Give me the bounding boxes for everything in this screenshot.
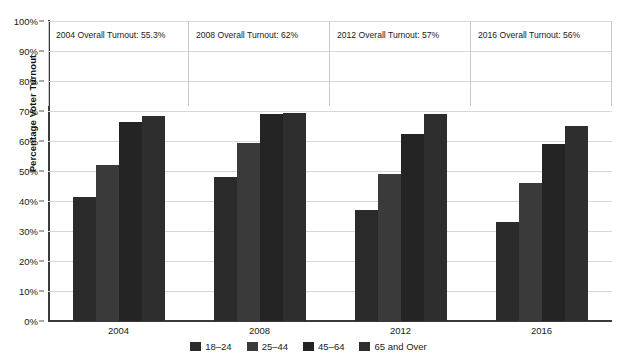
y-tick-label: 60% [19,136,38,147]
y-tick-mark [39,21,44,22]
y-tick-label: 10% [19,286,38,297]
bar-2012-25–44 [378,174,401,321]
y-tick-mark [39,81,44,82]
legend-swatch-icon [359,342,370,351]
y-tick-mark [39,261,44,262]
y-tick-mark [39,201,44,202]
x-tick-label-2008: 2008 [249,325,270,336]
y-tick-label: 100% [14,16,38,27]
bar-2008-18–24 [214,177,237,321]
y-tick-label: 70% [19,106,38,117]
chart-legend: 18–2425–4445–6465 and Over [0,341,617,352]
bar-2004-25–44 [96,165,119,321]
bar-2016-25–44 [519,183,542,321]
y-tick-mark [39,321,44,322]
y-axis-ticks: 0%10%20%30%40%50%60%70%80%90%100% [0,0,48,361]
bar-2008-65-and-Over [283,113,306,322]
bar-2008-45–64 [260,114,283,321]
y-tick-label: 30% [19,226,38,237]
x-tick-label-2012: 2012 [390,325,411,336]
bar-2004-65-and-Over [142,116,165,322]
y-tick-mark [39,111,44,112]
bar-2012-65-and-Over [424,114,447,321]
legend-swatch-icon [303,342,314,351]
y-tick-label: 80% [19,76,38,87]
y-tick-label: 20% [19,256,38,267]
y-tick-mark [39,51,44,52]
legend-item-25–44[interactable]: 25–44 [247,341,288,352]
y-tick-mark [39,141,44,142]
bar-2012-18–24 [355,210,378,321]
plot-area: 2004 Overall Turnout: 55.3%2008 Overall … [48,21,612,321]
legend-label: 25–44 [262,341,288,352]
bar-2008-25–44 [237,143,260,322]
bars-layer [48,21,612,321]
legend-label: 18–24 [205,341,231,352]
y-tick-label: 40% [19,196,38,207]
y-tick-label: 0% [24,316,38,327]
bar-2016-18–24 [496,222,519,321]
bar-2004-45–64 [119,122,142,322]
x-tick-label-2016: 2016 [531,325,552,336]
legend-item-65-and-Over[interactable]: 65 and Over [359,341,426,352]
x-axis-labels: 2004200820122016 [48,323,612,343]
bar-2004-18–24 [73,197,96,322]
y-tick-mark [39,231,44,232]
legend-label: 65 and Over [374,341,426,352]
legend-item-45–64[interactable]: 45–64 [303,341,344,352]
y-tick-label: 50% [19,166,38,177]
legend-item-18–24[interactable]: 18–24 [190,341,231,352]
legend-swatch-icon [247,342,258,351]
y-tick-mark [39,171,44,172]
y-tick-mark [39,291,44,292]
y-tick-label: 90% [19,46,38,57]
bar-2016-65-and-Over [565,126,588,321]
bar-2016-45–64 [542,144,565,321]
x-tick-label-2004: 2004 [108,325,129,336]
legend-label: 45–64 [318,341,344,352]
bar-2012-45–64 [401,134,424,322]
bar-chart: Percentage Voter Turnout 0%10%20%30%40%5… [0,0,617,361]
legend-swatch-icon [190,342,201,351]
